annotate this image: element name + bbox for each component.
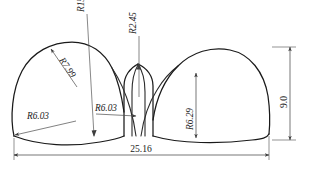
overall-height-label: 9.0 xyxy=(278,96,289,108)
tunnel-outline-group xyxy=(12,42,270,145)
center-chamber-left-wall xyxy=(124,64,138,136)
r7-99-label: R7.99 xyxy=(57,55,78,80)
drawing-canvas: R15.06 R7.99 R6.03 R6.03 R2.45 R6.29 xyxy=(0,0,310,172)
r15-06-arrowhead xyxy=(92,130,97,137)
right-chamber-outline xyxy=(153,49,270,134)
r15-06-dimension: R15.06 xyxy=(76,0,97,137)
r6-03-mid-leader-line xyxy=(96,114,136,116)
overall-width-label: 25.16 xyxy=(130,143,152,154)
r15-06-leader-line xyxy=(87,14,94,136)
r6-03-left-leader-line xyxy=(15,121,76,135)
r6-03-left-label: R6.03 xyxy=(26,111,49,121)
r15-06-label: R15.06 xyxy=(76,0,86,13)
r2-45-dimension: R2.45 xyxy=(128,12,141,97)
overall-height-dimension: 9.0 xyxy=(272,47,296,140)
r6-03-mid-label: R6.03 xyxy=(94,103,117,113)
r6-03-left-dimension: R6.03 xyxy=(15,111,76,135)
center-chamber-inner-left xyxy=(132,65,138,136)
technical-drawing-svg: R15.06 R7.99 R6.03 R6.03 R2.45 R6.29 xyxy=(0,0,310,172)
r7-99-dimension: R7.99 xyxy=(51,49,78,87)
r6-29-dimension: R6.29 xyxy=(185,73,196,138)
left-chamber-outline xyxy=(12,42,124,136)
r2-45-label: R2.45 xyxy=(128,12,138,35)
right-chamber-sweep-arc xyxy=(141,66,178,136)
right-chamber-base xyxy=(153,134,269,143)
r6-29-label: R6.29 xyxy=(185,108,195,131)
left-chamber-base xyxy=(14,136,124,145)
overall-width-dimension: 25.16 xyxy=(14,136,269,160)
r6-03-mid-dimension: R6.03 xyxy=(94,103,136,116)
